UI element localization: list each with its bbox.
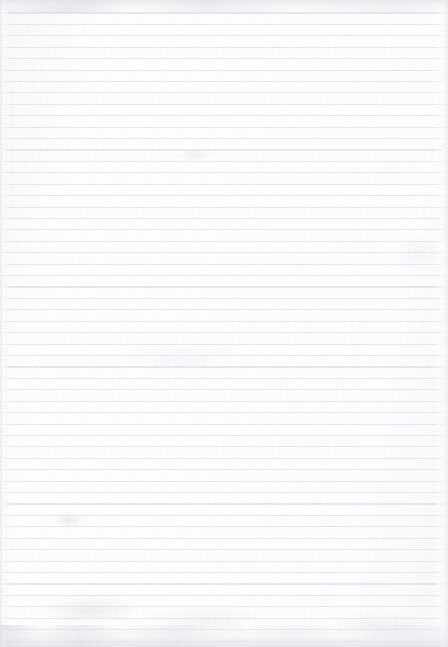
page-edge-top — [0, 0, 448, 13]
scanned-paper-page — [0, 0, 448, 647]
page-edge-left — [0, 0, 7, 647]
page-edge-bottom — [0, 625, 448, 647]
page-edge-right — [439, 0, 448, 647]
ruled-lines — [3, 0, 443, 647]
